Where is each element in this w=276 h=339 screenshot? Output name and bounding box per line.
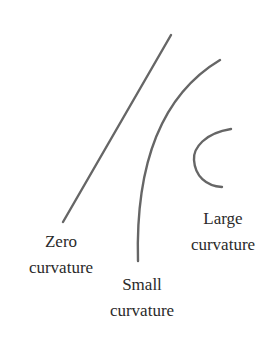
large-curvature-label-line1: Large <box>178 206 268 232</box>
zero-curvature-line <box>63 35 171 222</box>
zero-curvature-label: Zero curvature <box>16 229 106 281</box>
small-curvature-label: Small curvature <box>100 272 184 324</box>
zero-curvature-label-line1: Zero <box>16 229 106 255</box>
large-curvature-label-line2: curvature <box>178 232 268 258</box>
small-curvature-label-line2: curvature <box>100 298 184 324</box>
small-curvature-label-line1: Small <box>100 272 184 298</box>
large-curvature-label: Large curvature <box>178 206 268 258</box>
zero-curvature-label-line2: curvature <box>16 255 106 281</box>
large-curvature-curve <box>194 129 231 187</box>
